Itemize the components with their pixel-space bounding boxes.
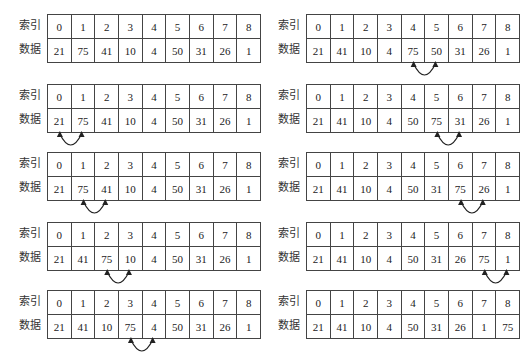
index-cell: 8 xyxy=(496,223,520,247)
data-cell: 26 xyxy=(213,39,237,63)
data-row-label: 数据 xyxy=(0,38,41,62)
data-cell: 10 xyxy=(354,39,378,63)
index-row: 012345678 xyxy=(48,153,261,177)
data-cell: 1 xyxy=(496,247,520,271)
index-cell: 4 xyxy=(401,223,425,247)
data-row-label: 数据 xyxy=(0,176,41,200)
index-cell: 3 xyxy=(118,15,142,39)
arrowhead xyxy=(434,131,440,137)
data-cell: 26 xyxy=(213,177,237,201)
data-cell: 21 xyxy=(307,247,331,271)
data-cell: 1 xyxy=(496,39,520,63)
index-cell: 0 xyxy=(48,153,72,177)
index-row: 012345678 xyxy=(307,85,520,109)
data-cell: 75 xyxy=(118,315,142,339)
index-cell: 6 xyxy=(448,291,472,315)
index-cell: 1 xyxy=(330,223,354,247)
data-cell: 31 xyxy=(448,109,472,133)
array-table: 0123456782175411045031261 xyxy=(47,152,261,201)
data-cell: 41 xyxy=(330,177,354,201)
data-cell: 31 xyxy=(425,177,449,201)
data-cell: 50 xyxy=(401,315,425,339)
index-cell: 5 xyxy=(425,15,449,39)
swap-arc xyxy=(437,134,459,145)
index-cell: 5 xyxy=(166,15,190,39)
step-panel: 索引数据0123456782175411045031261 xyxy=(1,152,261,222)
data-cell: 75 xyxy=(401,39,425,63)
index-cell: 7 xyxy=(213,85,237,109)
array-table: 0123456782175411045031261 xyxy=(47,14,261,63)
index-cell: 2 xyxy=(95,291,119,315)
index-cell: 7 xyxy=(213,15,237,39)
step-panel: 索引数据0123456782141104503126751 xyxy=(260,222,520,292)
index-cell: 1 xyxy=(330,15,354,39)
index-row: 012345678 xyxy=(48,85,261,109)
data-row: 2141107545031261 xyxy=(48,315,261,339)
index-cell: 6 xyxy=(189,291,213,315)
data-cell: 50 xyxy=(401,177,425,201)
data-cell: 75 xyxy=(71,177,95,201)
arrowhead xyxy=(128,337,134,343)
swap-arrow-icon xyxy=(47,130,261,154)
array-table: 0123456782141104503126175 xyxy=(306,290,520,339)
data-cell: 21 xyxy=(48,177,72,201)
data-row-label: 数据 xyxy=(0,108,41,132)
index-cell: 5 xyxy=(425,85,449,109)
data-row: 2175411045031261 xyxy=(48,109,261,133)
index-cell: 8 xyxy=(496,291,520,315)
swap-arc xyxy=(414,64,436,75)
data-cell: 41 xyxy=(71,247,95,271)
index-cell: 2 xyxy=(95,15,119,39)
arrowhead xyxy=(81,199,87,205)
index-cell: 2 xyxy=(95,153,119,177)
swap-arrow-icon xyxy=(47,268,261,292)
data-cell: 10 xyxy=(118,39,142,63)
data-cell: 50 xyxy=(166,315,190,339)
data-cell: 31 xyxy=(189,109,213,133)
index-row-label: 索引 xyxy=(256,290,300,314)
index-row: 012345678 xyxy=(48,291,261,315)
index-cell: 6 xyxy=(189,15,213,39)
data-cell: 21 xyxy=(48,39,72,63)
data-cell: 75 xyxy=(472,247,496,271)
data-cell: 41 xyxy=(330,247,354,271)
index-cell: 0 xyxy=(48,15,72,39)
index-cell: 5 xyxy=(425,291,449,315)
step-panel: 索引数据0123456782141751045031261 xyxy=(1,222,261,292)
index-cell: 0 xyxy=(48,223,72,247)
data-cell: 41 xyxy=(71,315,95,339)
data-row: 2141104503175261 xyxy=(307,177,520,201)
data-cell: 50 xyxy=(401,109,425,133)
index-cell: 5 xyxy=(166,291,190,315)
index-cell: 2 xyxy=(95,223,119,247)
arrowhead xyxy=(102,199,108,205)
swap-arrow-icon xyxy=(47,198,261,222)
data-cell: 75 xyxy=(448,177,472,201)
data-cell: 31 xyxy=(425,247,449,271)
swap-arrow-icon xyxy=(306,268,520,292)
index-cell: 7 xyxy=(472,15,496,39)
data-cell: 50 xyxy=(166,39,190,63)
arrowhead xyxy=(150,337,156,343)
data-row: 2141104507531261 xyxy=(307,109,520,133)
index-cell: 3 xyxy=(377,291,401,315)
data-cell: 26 xyxy=(213,315,237,339)
data-cell: 31 xyxy=(189,177,213,201)
index-cell: 7 xyxy=(472,223,496,247)
data-cell: 4 xyxy=(377,247,401,271)
swap-arc xyxy=(131,340,153,351)
data-cell: 31 xyxy=(425,315,449,339)
index-cell: 5 xyxy=(166,223,190,247)
data-cell: 41 xyxy=(95,109,119,133)
array-table: 0123456782141104503126751 xyxy=(306,222,520,271)
data-cell: 75 xyxy=(71,109,95,133)
swap-arc xyxy=(84,202,106,213)
step-panel: 索引数据0123456782175411045031261 xyxy=(1,14,261,84)
index-cell: 7 xyxy=(213,223,237,247)
index-cell: 6 xyxy=(448,153,472,177)
data-cell: 41 xyxy=(330,109,354,133)
index-cell: 5 xyxy=(425,153,449,177)
index-cell: 3 xyxy=(118,291,142,315)
index-cell: 3 xyxy=(377,15,401,39)
arrowhead xyxy=(79,131,85,137)
